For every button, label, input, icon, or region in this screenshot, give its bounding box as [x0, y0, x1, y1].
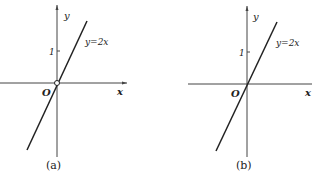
- open-circle-origin-icon: [55, 81, 60, 86]
- tick-label: 1: [49, 47, 55, 57]
- x-axis-label: x: [304, 87, 312, 98]
- graph-b: y 1 y=2x O x (b): [188, 6, 312, 172]
- line-label: y=2x: [84, 37, 108, 47]
- figure-canvas: y 1 y=2x O x (a) y 1 y=2x O x (b): [0, 0, 312, 179]
- origin-label: O: [42, 87, 51, 98]
- caption-a: (a): [46, 159, 61, 172]
- y-axis-arrow-icon: [56, 5, 59, 10]
- caption-b: (b): [236, 159, 252, 172]
- tick-label: 1: [239, 48, 245, 58]
- y-axis-label: y: [63, 10, 70, 21]
- x-axis-arrow-icon: [122, 82, 127, 85]
- y-axis-arrow-icon: [246, 6, 249, 11]
- x-axis-label: x: [116, 86, 124, 97]
- origin-label: O: [231, 88, 240, 99]
- graph-a: y 1 y=2x O x (a): [0, 5, 127, 172]
- line-label: y=2x: [275, 38, 299, 48]
- y-axis-label: y: [252, 11, 259, 22]
